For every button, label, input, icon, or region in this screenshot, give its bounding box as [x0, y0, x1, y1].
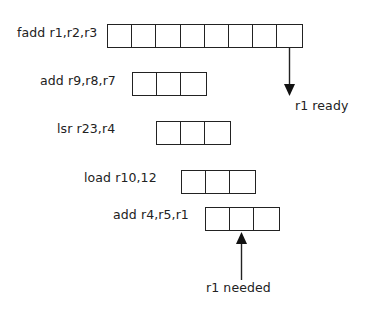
- r1-ready-annotation: r1 ready: [295, 98, 348, 113]
- r1-needed-annotation: r1 needed: [206, 280, 271, 295]
- down-arrow-icon: [284, 48, 295, 96]
- up-arrow-icon: [236, 232, 247, 280]
- arrows-layer: [0, 0, 365, 309]
